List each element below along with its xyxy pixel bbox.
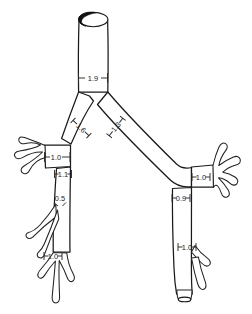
left-upper-segmental-branches <box>213 143 240 197</box>
measurement-label-bronchus-intermedius: 1.1 <box>58 170 68 179</box>
left-lower-lobe-bronchus <box>172 188 192 295</box>
right-upper-segmental-branches <box>14 137 45 174</box>
measurement-label-trachea: 1.9 <box>88 74 98 83</box>
bronchial-tree-diagram: 1.9 1.6 1.3 1.0 1.1 0.5 <box>0 0 252 314</box>
measurement-label-left-upper-lobe: 1.0 <box>196 173 206 182</box>
left-main-bronchus <box>98 92 192 187</box>
bronchial-tree-drawing: 1.9 1.6 1.3 1.0 1.1 0.5 <box>0 0 252 314</box>
left-lower-terminal-lumen <box>178 297 190 302</box>
measurement-label-left-lower-bronchus: 0.9 <box>176 194 186 203</box>
measurement-label-left-lower-lobe: 1.0 <box>182 243 192 252</box>
measurement-label-right-middle-lobe: 0.5 <box>55 194 65 203</box>
measurement-label-right-lower-lobe: 1.0 <box>48 252 58 261</box>
measurement-label-right-upper-lobe: 1.0 <box>51 153 61 162</box>
